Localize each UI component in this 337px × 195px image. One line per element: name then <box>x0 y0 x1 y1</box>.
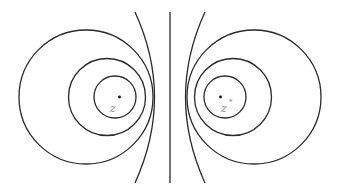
right-circle-large <box>187 30 321 164</box>
right-arc <box>186 12 206 183</box>
label-zstar: z <box>220 102 227 115</box>
left-arc <box>135 12 155 183</box>
left-circle-large <box>19 30 153 164</box>
label-z: z <box>109 102 116 115</box>
label-zstar-superscript: * <box>229 98 233 106</box>
point-z-dot <box>118 96 121 99</box>
apollonian-circles-diagram: z z * <box>0 0 337 195</box>
point-zstar-dot <box>219 96 222 99</box>
right-circle-medium <box>195 59 272 136</box>
left-circle-medium <box>69 59 146 136</box>
